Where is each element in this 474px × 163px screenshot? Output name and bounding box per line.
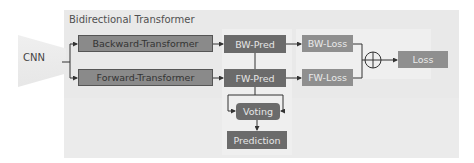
connector-lines [0, 0, 474, 163]
